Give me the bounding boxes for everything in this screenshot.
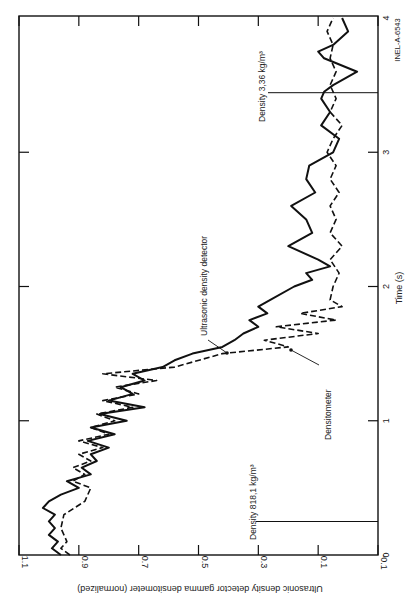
- time-tick-label: 1: [381, 418, 391, 423]
- value-tick-label: 0.5: [200, 556, 210, 569]
- density-high-label: Density 3,36 kg/m³: [257, 51, 267, 122]
- ultrasonic-label: Ultrasonic density detector: [199, 236, 209, 336]
- time-tick-label: 4: [381, 15, 391, 20]
- value-tick-label: 0.1: [319, 556, 329, 569]
- time-axis-title: Time (s): [394, 272, 404, 305]
- densitometer-label: Densitometer: [323, 389, 333, 440]
- value-tick-label: 1.1: [20, 556, 30, 569]
- figure-id: INEL-A-6543: [393, 18, 402, 61]
- time-axis-tick-labels: 01234: [381, 15, 391, 557]
- value-axis-tick-labels: 1.10.90.70.50.30.1-0.1: [20, 554, 389, 570]
- value-tick-label: 0.9: [80, 556, 90, 569]
- chart: Density 818,1 kg/m³ Density 3,36 kg/m³ U…: [0, 0, 416, 602]
- densitometer-leader-arrow: [291, 350, 319, 365]
- time-tick-label: 2: [381, 284, 391, 289]
- time-tick-label: 3: [381, 150, 391, 155]
- ultrasonic-arrowhead: [225, 351, 229, 355]
- density-low-label: Density 818,1 kg/m³: [248, 464, 258, 540]
- time-tick-label: 0: [381, 552, 391, 557]
- densitometer-arrowhead: [289, 348, 293, 352]
- value-axis-title: Ultrasonic density detector gamma densit…: [77, 584, 323, 594]
- value-tick-label: 0.7: [140, 556, 150, 569]
- value-tick-label: 0.3: [259, 556, 269, 569]
